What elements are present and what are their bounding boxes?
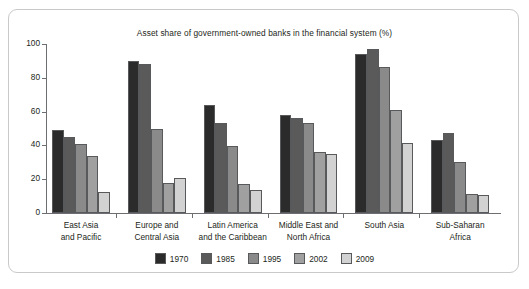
chart-legend: 19701985199520022009 (9, 253, 520, 264)
legend-item-1995[interactable]: 1995 (248, 253, 281, 264)
bar (139, 64, 151, 213)
x-axis-category-label: South Asia (346, 220, 422, 232)
x-axis-tick-mark (343, 214, 344, 218)
legend-label: 2009 (356, 254, 374, 264)
bar (478, 195, 490, 213)
y-axis-tick-mark (42, 44, 46, 45)
y-axis-tick-label: 100 (26, 38, 40, 48)
bar (227, 146, 239, 213)
bar (314, 152, 326, 213)
y-axis-tick-label: 60 (31, 106, 40, 116)
y-axis-tick-mark (42, 112, 46, 113)
legend-swatch-icon (201, 253, 212, 264)
bar (326, 154, 338, 213)
y-axis-tick-label: 20 (31, 173, 40, 183)
bar (75, 144, 87, 213)
bar (379, 67, 391, 213)
plot-area: 020406080100 East Asia and PacificEurope… (46, 44, 501, 213)
bar (355, 54, 367, 213)
bar (466, 194, 478, 213)
x-axis-line (46, 213, 501, 214)
x-axis-tick-mark (419, 214, 420, 218)
y-axis-tick-mark (42, 179, 46, 180)
bar (204, 105, 216, 213)
bar (390, 110, 402, 213)
y-axis-tick-mark (42, 213, 46, 214)
x-axis-tick-mark (268, 214, 269, 218)
y-axis-tick-label: 80 (31, 72, 40, 82)
bar (402, 143, 414, 213)
legend-label: 1985 (216, 254, 234, 264)
bar (174, 178, 186, 213)
legend-item-2009[interactable]: 2009 (341, 253, 374, 264)
legend-item-1970[interactable]: 1970 (155, 253, 188, 264)
bar (98, 192, 110, 213)
x-axis-category-label: Middle East and North Africa (271, 220, 347, 243)
x-axis-category-label: Sub-Saharan Africa (422, 220, 498, 243)
legend-swatch-icon (248, 253, 259, 264)
bar (280, 115, 292, 213)
x-axis-category-label: Latin America and the Caribbean (195, 220, 271, 243)
bar (52, 130, 64, 213)
bar (128, 61, 140, 213)
y-axis-line (46, 44, 47, 213)
bar (151, 129, 163, 213)
bar (367, 49, 379, 213)
bar (443, 133, 455, 213)
bar (163, 183, 175, 213)
legend-label: 1970 (170, 254, 188, 264)
chart-frame: Asset share of government-owned banks in… (8, 9, 519, 273)
bar (303, 123, 315, 213)
y-axis-tick-label: 40 (31, 139, 40, 149)
bar (250, 190, 262, 213)
y-axis-tick-label: 0 (35, 207, 40, 217)
x-axis-category-label: East Asia and Pacific (43, 220, 119, 243)
legend-swatch-icon (155, 253, 166, 264)
chart-title: Asset share of government-owned banks in… (9, 28, 520, 38)
legend-item-2002[interactable]: 2002 (294, 253, 327, 264)
y-axis-tick-mark (42, 145, 46, 146)
legend-item-1985[interactable]: 1985 (201, 253, 234, 264)
legend-label: 2002 (309, 254, 327, 264)
bar (64, 137, 76, 213)
bar (454, 162, 466, 213)
x-axis-category-label: Europe and Central Asia (119, 220, 195, 243)
x-axis-tick-mark (116, 214, 117, 218)
bar (291, 118, 303, 213)
bar (238, 184, 250, 213)
legend-label: 1995 (263, 254, 281, 264)
y-axis-tick-mark (42, 78, 46, 79)
x-axis-tick-mark (192, 214, 193, 218)
legend-swatch-icon (341, 253, 352, 264)
bar (431, 140, 443, 214)
bar (87, 156, 99, 213)
bar (215, 123, 227, 213)
legend-swatch-icon (294, 253, 305, 264)
